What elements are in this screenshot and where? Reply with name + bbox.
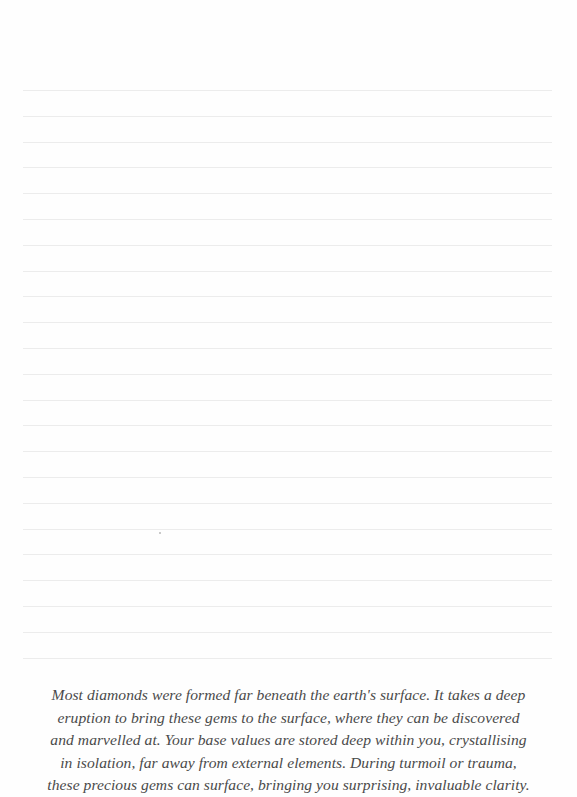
diamond-quote: Most diamonds were formed far beneath th… bbox=[0, 684, 577, 797]
rule-line bbox=[23, 296, 552, 297]
rule-line bbox=[23, 425, 552, 426]
rule-line bbox=[23, 322, 552, 323]
quote-line-1: Most diamonds were formed far beneath th… bbox=[0, 684, 577, 707]
rule-line bbox=[23, 529, 552, 530]
rule-line bbox=[23, 271, 552, 272]
rule-line bbox=[23, 658, 552, 659]
quote-line-5: these precious gems can surface, bringin… bbox=[0, 774, 577, 797]
rule-line bbox=[23, 348, 552, 349]
rule-line bbox=[23, 451, 552, 452]
rule-line bbox=[23, 400, 552, 401]
rule-line bbox=[23, 245, 552, 246]
rule-line bbox=[23, 606, 552, 607]
rule-line bbox=[23, 167, 552, 168]
rule-line bbox=[23, 477, 552, 478]
rule-line bbox=[23, 503, 552, 504]
rule-line bbox=[23, 580, 552, 581]
rule-line bbox=[23, 193, 552, 194]
quote-line-4: in isolation, far away from external ele… bbox=[0, 752, 577, 775]
rule-line bbox=[23, 632, 552, 633]
rule-line bbox=[23, 219, 552, 220]
ruled-writing-area[interactable] bbox=[23, 0, 552, 670]
stray-dot-mark bbox=[159, 532, 161, 534]
quote-line-3: and marvelled at. Your base values are s… bbox=[0, 729, 577, 752]
quote-line-2: eruption to bring these gems to the surf… bbox=[0, 707, 577, 730]
rule-line bbox=[23, 554, 552, 555]
rule-line bbox=[23, 116, 552, 117]
rule-line bbox=[23, 142, 552, 143]
rule-line bbox=[23, 374, 552, 375]
rule-line bbox=[23, 90, 552, 91]
